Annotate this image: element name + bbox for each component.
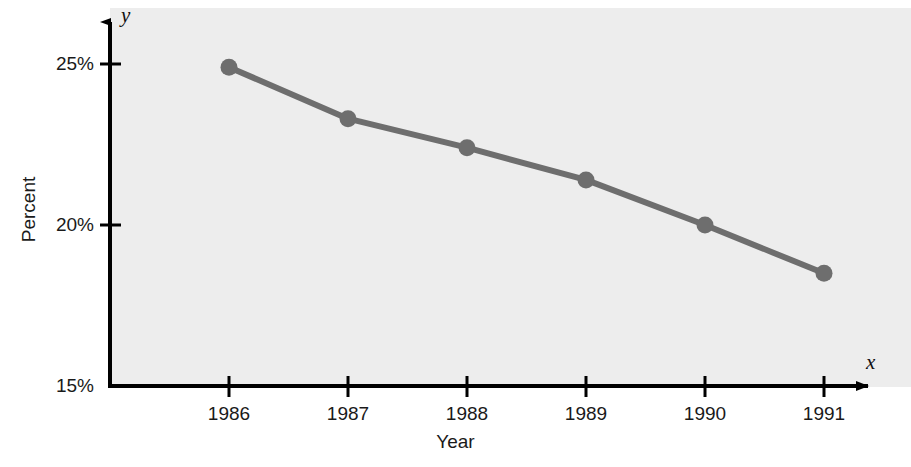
data-point-markers bbox=[221, 59, 833, 282]
data-series-line bbox=[229, 67, 824, 273]
data-point-1986 bbox=[221, 59, 238, 76]
data-point-1990 bbox=[697, 217, 714, 234]
data-point-1989 bbox=[578, 171, 595, 188]
chart-figure: 25% 20% 15% 1986 1987 1988 1989 1990 199… bbox=[0, 0, 911, 467]
x-axis-title: Year bbox=[0, 432, 911, 451]
x-tick-label-1989: 1989 bbox=[546, 404, 626, 423]
data-point-1988 bbox=[459, 139, 476, 156]
y-tick-label-15: 15% bbox=[34, 376, 94, 395]
x-axis-variable-label: x bbox=[866, 352, 875, 373]
x-tick-label-1990: 1990 bbox=[665, 404, 745, 423]
data-point-1991 bbox=[816, 265, 833, 282]
data-point-1987 bbox=[340, 110, 357, 127]
y-axis-variable-label: y bbox=[121, 5, 130, 26]
x-tick-label-1988: 1988 bbox=[427, 404, 507, 423]
x-tick-label-1991: 1991 bbox=[784, 404, 864, 423]
x-tick-label-1987: 1987 bbox=[308, 404, 388, 423]
y-axis-title: Percent bbox=[19, 150, 38, 270]
x-tick-label-1986: 1986 bbox=[189, 404, 269, 423]
chart-canvas bbox=[0, 0, 911, 467]
y-tick-label-20: 20% bbox=[34, 215, 94, 234]
y-tick-label-25: 25% bbox=[34, 54, 94, 73]
